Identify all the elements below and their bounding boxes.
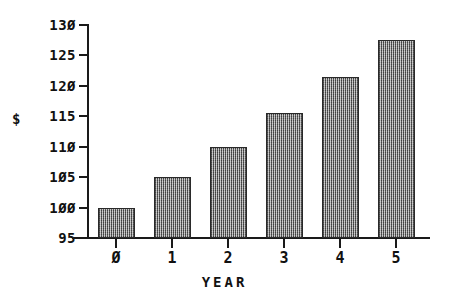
y-tick-label-row: 1ØØ	[0, 201, 76, 215]
x-tick-mark	[171, 239, 173, 248]
plot-area	[88, 25, 424, 238]
y-tick-label: 1ØØ	[30, 201, 76, 215]
x-tick-mark	[115, 239, 117, 248]
x-tick-label: 4	[325, 251, 355, 266]
y-tick-label-row: 125	[0, 48, 76, 62]
x-tick-mark	[283, 239, 285, 248]
y-tick-label: 115	[30, 109, 76, 123]
x-tick-mark	[395, 239, 397, 248]
y-tick-label-row: 95	[0, 231, 76, 245]
x-tick-label: 5	[381, 251, 411, 266]
y-tick-label-row: 12Ø	[0, 79, 76, 93]
x-tick-mark	[339, 239, 341, 248]
bar-chart: $ 951ØØ1Ø511Ø11512Ø12513Ø Ø12345 YEAR	[0, 0, 449, 301]
x-tick-label: 2	[213, 251, 243, 266]
y-tick-label-row: 11Ø	[0, 140, 76, 154]
y-tick-label: 125	[30, 48, 76, 62]
y-tick-label: 12Ø	[30, 79, 76, 93]
y-tick-label: 1Ø5	[30, 170, 76, 184]
x-tick-label: 1	[157, 251, 187, 266]
x-tick-mark	[227, 239, 229, 248]
x-tick-label: 3	[269, 251, 299, 266]
y-tick-label: 95	[30, 231, 76, 245]
x-tick-label: Ø	[101, 251, 131, 266]
bar	[322, 77, 359, 238]
bar	[98, 208, 135, 238]
bar	[210, 147, 247, 238]
y-tick-label-row: 1Ø5	[0, 170, 76, 184]
x-axis-label: YEAR	[0, 275, 449, 289]
bar	[154, 177, 191, 238]
y-tick-label: 11Ø	[30, 140, 76, 154]
y-tick-label-row: 115	[0, 109, 76, 123]
y-tick-label: 13Ø	[30, 18, 76, 32]
bar	[378, 40, 415, 238]
y-tick-label-row: 13Ø	[0, 18, 76, 32]
bar	[266, 113, 303, 238]
